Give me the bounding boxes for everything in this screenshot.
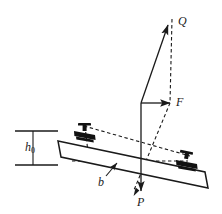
- p-component-dashed-head: [134, 103, 170, 196]
- q-resultant-dashed-line: [170, 19, 172, 103]
- mechanics-figure: Q F P b h0: [0, 0, 222, 214]
- figure-canvas: [0, 0, 222, 214]
- label-force-f: F: [176, 96, 183, 108]
- dimension-h0: [15, 131, 58, 165]
- label-dimension-h0: h0: [25, 141, 35, 153]
- h0-subscript: 0: [31, 146, 35, 155]
- label-force-p: P: [137, 196, 144, 208]
- rail-fastener-left: [74, 123, 96, 143]
- label-force-q: Q: [178, 15, 187, 27]
- label-dimension-b: b: [98, 176, 104, 188]
- vector-Q: [141, 25, 168, 103]
